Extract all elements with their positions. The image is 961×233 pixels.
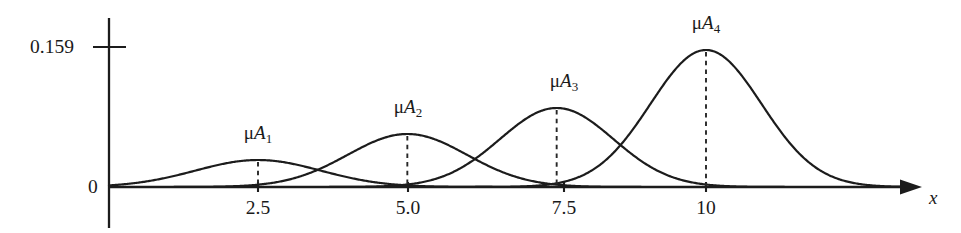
- mu-subscript-base: A: [702, 12, 714, 33]
- mu-glyph: μ: [244, 122, 254, 143]
- mu-subscript-index: 1: [266, 131, 273, 146]
- curve-mu-a2: [133, 134, 682, 187]
- curve-label-mu-a3: μA3: [550, 71, 579, 93]
- mu-subscript-index: 3: [572, 79, 579, 94]
- mu-glyph: μ: [394, 96, 404, 117]
- mu-subscript-base: A: [560, 70, 572, 91]
- x-tick-label-10: 10: [696, 198, 716, 218]
- plot-svg: [0, 0, 961, 233]
- mu-subscript-base: A: [404, 96, 416, 117]
- x-tick-label-5-0: 5.0: [396, 198, 420, 218]
- mu-subscript-index: 2: [416, 105, 423, 120]
- y-axis-zero-label: 0: [88, 177, 98, 197]
- mu-glyph: μ: [550, 70, 560, 91]
- figure-canvas: 0.159 0 2.5 5.0 7.5 10 x μA1 μA2 μA3 μA4: [0, 0, 961, 233]
- curve-label-mu-a2: μA2: [394, 97, 423, 119]
- mu-subscript-index: 4: [714, 21, 721, 36]
- curve-mu-a1: [109, 160, 546, 187]
- curve-label-mu-a4: μA4: [692, 13, 721, 35]
- curve-label-mu-a1: μA1: [244, 123, 273, 145]
- curve-group: [109, 50, 915, 187]
- x-tick-label-2-5: 2.5: [246, 198, 270, 218]
- x-axis-name-label: x: [929, 188, 937, 207]
- mu-glyph: μ: [692, 12, 702, 33]
- y-axis-max-label: 0.159: [30, 37, 74, 57]
- x-tick-label-7-5: 7.5: [552, 198, 576, 218]
- curve-mu-a4: [450, 50, 914, 187]
- mu-subscript-base: A: [254, 122, 266, 143]
